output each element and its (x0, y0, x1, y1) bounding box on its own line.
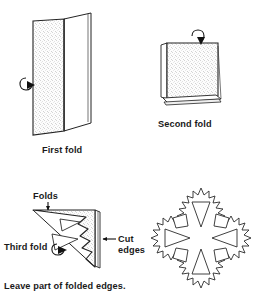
footnote-text: Leave part of folded edges. (4, 281, 126, 291)
folds-label: Folds (33, 191, 58, 201)
third-fold-cut-edge-strip (95, 210, 100, 268)
second-fold-side-layer (161, 43, 167, 99)
third-fold-label: Third fold (4, 242, 47, 252)
cut-edges-label-line2: edges (118, 245, 145, 255)
second-fold-face (167, 43, 218, 99)
first-fold-back-leaf (64, 13, 91, 131)
first-fold-front-leaf (33, 19, 64, 135)
second-fold-caption: Second fold (158, 119, 212, 129)
snowflake-instruction-figure: First fold Second fold Folds (0, 0, 258, 296)
first-fold-caption: First fold (42, 145, 82, 155)
cut-edges-label-line1: Cut (118, 234, 134, 244)
